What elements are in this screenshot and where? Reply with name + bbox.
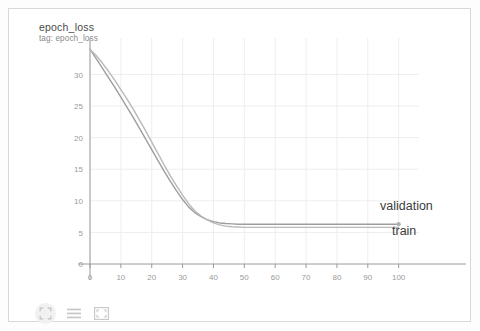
x-tick-label: 80 [332, 273, 341, 282]
chart-plot-area[interactable]: 0510152025300102030405060708090100 [9, 9, 472, 323]
fit-icon[interactable] [91, 303, 112, 324]
x-tick-label: 0 [88, 273, 93, 282]
scalar-chart-card: epoch_loss tag: epoch_loss 0510152025300… [8, 8, 471, 322]
y-tick-label: 20 [74, 134, 83, 143]
lines-icon[interactable] [63, 303, 84, 324]
line-chart-svg: 0510152025300102030405060708090100 [9, 9, 472, 323]
expand-icon[interactable] [35, 303, 56, 324]
x-tick-label: 50 [240, 273, 249, 282]
y-tick-label: 5 [79, 229, 84, 238]
x-tick-label: 40 [209, 273, 218, 282]
x-tick-label: 90 [363, 273, 372, 282]
screenshot-root: epoch_loss tag: epoch_loss 0510152025300… [0, 0, 480, 331]
y-tick-label: 30 [74, 71, 83, 80]
x-tick-label: 10 [116, 273, 125, 282]
x-tick-label: 70 [302, 273, 311, 282]
x-tick-label: 30 [178, 273, 187, 282]
y-tick-label: 0 [79, 260, 84, 269]
series-label-validation: validation [380, 199, 433, 213]
x-tick-label: 60 [271, 273, 280, 282]
y-tick-label: 15 [74, 165, 83, 174]
y-tick-label: 25 [74, 102, 83, 111]
series-label-train: train [392, 224, 416, 238]
chart-toolbar [35, 303, 112, 324]
x-tick-label: 20 [147, 273, 156, 282]
y-tick-label: 10 [74, 197, 83, 206]
x-tick-label: 100 [392, 273, 406, 282]
